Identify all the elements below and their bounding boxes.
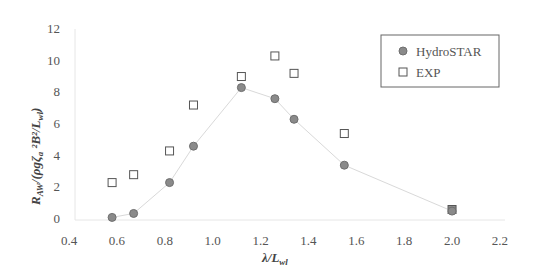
exp-point bbox=[340, 130, 348, 138]
hydrostar-point bbox=[166, 179, 174, 187]
y-tick-labels: 024681012 bbox=[47, 21, 61, 226]
x-tick-label: 1.2 bbox=[252, 233, 268, 248]
series-line-hydrostar bbox=[112, 88, 452, 218]
exp-point bbox=[166, 147, 174, 155]
hydrostar-point bbox=[108, 213, 116, 221]
hydrostar-point bbox=[237, 84, 245, 92]
legend-label-exp: EXP bbox=[416, 65, 441, 80]
x-tick-label: 2.2 bbox=[492, 233, 508, 248]
legend-circle-marker-icon bbox=[399, 47, 407, 55]
exp-point bbox=[290, 69, 298, 77]
x-tick-label: 0.4 bbox=[61, 233, 78, 248]
hydrostar-point bbox=[340, 161, 348, 169]
legend-square-marker-icon bbox=[399, 68, 407, 76]
y-tick-label: 4 bbox=[54, 148, 61, 163]
x-tick-label: 1.0 bbox=[205, 233, 221, 248]
exp-point bbox=[108, 179, 116, 187]
hydrostar-point bbox=[448, 207, 456, 215]
x-axis-title: λ/Lwl bbox=[261, 250, 288, 267]
x-tick-label: 1.8 bbox=[396, 233, 412, 248]
exp-point bbox=[189, 101, 197, 109]
y-tick-label: 8 bbox=[54, 84, 61, 99]
y-axis-title: RAW/(ρgζa ²B²/Lwl) bbox=[28, 108, 45, 206]
x-tick-label: 1.6 bbox=[348, 233, 365, 248]
x-tick-label: 0.8 bbox=[157, 233, 173, 248]
legend: HydroSTAR EXP bbox=[381, 35, 499, 87]
hydrostar-point bbox=[271, 95, 279, 103]
y-tick-label: 0 bbox=[54, 211, 61, 226]
y-tick-label: 12 bbox=[47, 21, 60, 36]
exp-point bbox=[271, 52, 279, 60]
hydrostar-point bbox=[189, 142, 197, 150]
legend-label-hydrostar: HydroSTAR bbox=[416, 44, 482, 59]
hydrostar-point bbox=[290, 115, 298, 123]
x-tick-label: 2.0 bbox=[444, 233, 460, 248]
hydrostar-point bbox=[130, 209, 138, 217]
hydrostar-line bbox=[112, 88, 452, 218]
exp-point bbox=[237, 73, 245, 81]
x-tick-label: 1.4 bbox=[300, 233, 317, 248]
y-tick-label: 2 bbox=[54, 179, 61, 194]
exp-point bbox=[130, 171, 138, 179]
y-tick-label: 10 bbox=[47, 53, 60, 68]
chart: 024681012 0.40.60.81.01.21.41.61.82.02.2… bbox=[0, 0, 540, 280]
x-tick-label: 0.6 bbox=[109, 233, 126, 248]
y-tick-label: 6 bbox=[54, 116, 61, 131]
x-tick-labels: 0.40.60.81.01.21.41.61.82.02.2 bbox=[61, 233, 508, 248]
